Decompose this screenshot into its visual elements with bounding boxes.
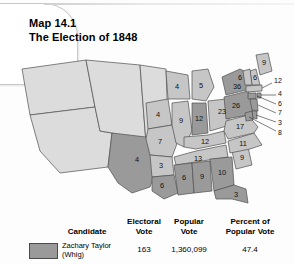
column-header-percent-line1: Percent of bbox=[212, 217, 288, 227]
column-header-popular-line2: Vote bbox=[168, 227, 210, 237]
column-header-electoral-line2: Vote bbox=[122, 227, 166, 237]
candidate-party: (Whig) bbox=[62, 250, 128, 259]
ev-label-maine: 9 bbox=[262, 58, 266, 67]
ev-label-connecticut: 6 bbox=[278, 100, 282, 107]
ev-label-indiana: 12 bbox=[195, 114, 203, 123]
us-map-svg: 9 6 6 36 26 23 17 11 9 10 3 9 6 6 3 4 13… bbox=[0, 47, 294, 212]
candidate-name-line1: Zachary Taylor bbox=[62, 241, 128, 250]
column-header-candidate: Candidate bbox=[56, 227, 118, 237]
ev-label-new-jersey: 7 bbox=[278, 109, 282, 116]
region-oregon-territory bbox=[22, 60, 95, 115]
ev-label-alabama: 9 bbox=[200, 172, 204, 181]
ev-label-new-hampshire: 6 bbox=[253, 73, 257, 82]
legend-color-swatch-taylor bbox=[29, 243, 58, 259]
ev-label-louisiana: 6 bbox=[160, 181, 164, 190]
ev-label-south-carolina: 9 bbox=[240, 153, 244, 162]
column-header-popular-line1: Popular bbox=[168, 217, 210, 227]
value-percent-popular-vote: 47.4 bbox=[212, 245, 288, 254]
region-maryland bbox=[245, 111, 253, 121]
ev-label-pennsylvania: 26 bbox=[232, 101, 240, 110]
ev-label-kentucky: 12 bbox=[201, 137, 209, 146]
column-header-popular-vote: Popular Vote bbox=[168, 217, 210, 237]
ev-label-ohio: 23 bbox=[218, 107, 226, 116]
ev-label-arkansas: 3 bbox=[159, 161, 163, 170]
table-row: Zachary Taylor (Whig) 163 1,360,099 47.4 bbox=[0, 241, 294, 263]
ev-label-virginia: 17 bbox=[236, 122, 244, 131]
ev-label-rhode-island: 4 bbox=[278, 90, 282, 97]
column-header-percent-line2: Popular Vote bbox=[212, 227, 288, 237]
ev-label-wisconsin: 4 bbox=[175, 82, 179, 91]
ev-label-florida: 3 bbox=[234, 190, 238, 199]
election-map: 9 6 6 36 26 23 17 11 9 10 3 9 6 6 3 4 13… bbox=[0, 47, 294, 212]
ev-label-north-carolina: 11 bbox=[239, 139, 247, 148]
value-electoral-vote: 163 bbox=[122, 245, 166, 254]
ev-label-maryland: 8 bbox=[278, 129, 282, 136]
column-header-electoral-line1: Electoral bbox=[122, 217, 166, 227]
ev-label-new-york: 36 bbox=[233, 82, 241, 91]
region-connecticut bbox=[248, 93, 256, 99]
ev-label-illinois: 9 bbox=[179, 116, 183, 125]
ev-label-iowa: 4 bbox=[156, 110, 160, 119]
column-header-percent: Percent of Popular Vote bbox=[212, 217, 288, 237]
leader-labels: 12 4 6 7 3 8 bbox=[274, 77, 282, 136]
ev-label-texas: 4 bbox=[135, 155, 139, 164]
ev-label-mississippi: 6 bbox=[182, 173, 186, 182]
region-massachusetts bbox=[246, 85, 262, 92]
page-title: Map 14.1 The Election of 1848 bbox=[29, 16, 137, 44]
map-number: Map 14.1 bbox=[29, 16, 137, 30]
scan-top-edge bbox=[44, 3, 294, 5]
ev-label-vermont: 6 bbox=[238, 73, 242, 82]
ev-label-michigan: 5 bbox=[199, 81, 203, 90]
region-louisiana bbox=[152, 175, 178, 199]
ev-label-delaware: 3 bbox=[278, 119, 282, 126]
scanned-page: Map 14.1 The Election of 1848 bbox=[0, 0, 294, 264]
region-vermont bbox=[243, 69, 252, 85]
ev-label-tennessee: 13 bbox=[194, 154, 202, 163]
legend-header-row: Candidate Electoral Vote Popular Vote Pe… bbox=[0, 214, 294, 240]
column-header-electoral-vote: Electoral Vote bbox=[122, 217, 166, 237]
value-popular-vote: 1,360,099 bbox=[168, 245, 210, 254]
map-title: The Election of 1848 bbox=[29, 30, 137, 44]
ev-label-georgia: 10 bbox=[218, 168, 226, 177]
ev-label-missouri: 7 bbox=[158, 137, 162, 146]
candidate-name: Zachary Taylor (Whig) bbox=[62, 241, 128, 260]
legend-table: Candidate Electoral Vote Popular Vote Pe… bbox=[0, 214, 294, 264]
ev-label-massachusetts: 12 bbox=[274, 77, 282, 84]
